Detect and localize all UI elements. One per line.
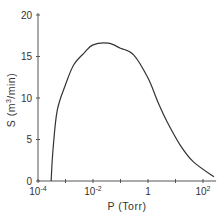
data-series [51, 43, 214, 181]
y-tick-label: 5 [26, 134, 32, 145]
x-axis-title: P (Torr) [108, 200, 147, 212]
y-tick-label: 10 [21, 93, 33, 104]
plot-area: 0510152010-410-21102 P (Torr)S (m3/min) [0, 0, 222, 218]
pumping-speed-chart: 0510152010-410-21102 P (Torr)S (m3/min) [0, 0, 222, 218]
x-tick-label: 1 [145, 186, 151, 197]
y-tick-label: 15 [21, 51, 33, 62]
x-tick-label: 10-4 [29, 185, 46, 197]
x-tick-label: 10-2 [84, 185, 101, 197]
y-axis-title: S (m3/min) [5, 73, 17, 127]
y-tick-label: 0 [26, 176, 32, 187]
pumping-speed-curve [51, 43, 214, 181]
x-tick-label: 102 [195, 185, 210, 197]
axes: 0510152010-410-21102 [21, 10, 216, 198]
y-tick-label: 20 [21, 10, 33, 21]
